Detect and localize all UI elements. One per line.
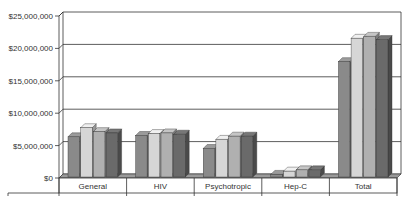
bar-chart: $0$5,000,000$10,000,000$15,000,000$20,00… — [0, 0, 408, 206]
y-tick-label: $20,000,000 — [9, 44, 54, 53]
x-category-label: HIV — [154, 182, 168, 191]
y-tick-label: $0 — [44, 174, 53, 183]
bar — [377, 36, 393, 177]
y-tick-label: $25,000,000 — [9, 12, 54, 21]
bar — [241, 132, 256, 177]
x-category-label: Total — [355, 182, 372, 191]
bar — [106, 129, 122, 177]
x-category-label: Psychotropic — [205, 182, 251, 191]
bar — [174, 130, 190, 177]
x-category-label: General — [79, 182, 108, 191]
bars — [68, 32, 392, 177]
y-tick-label: $10,000,000 — [9, 109, 54, 118]
bar — [309, 166, 325, 177]
y-tick-label: $15,000,000 — [9, 77, 54, 86]
y-tick-label: $5,000,000 — [13, 142, 54, 151]
x-category-label: Hep-C — [284, 182, 307, 191]
